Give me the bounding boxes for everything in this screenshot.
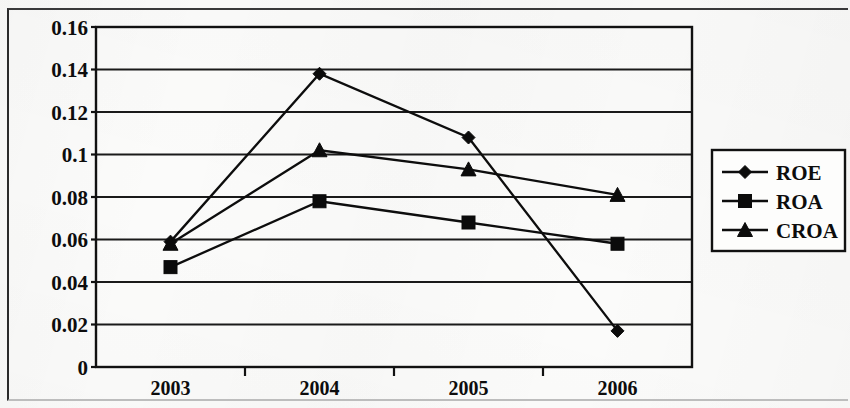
y-axis-tick-labels: 00.020.040.060.080.10.120.140.16 [51,16,96,380]
legend-label: CROA [776,219,839,243]
square-marker [739,195,752,208]
series-roe [164,67,624,337]
y-axis-tick-label: 0.08 [51,186,88,210]
series-roa [164,195,624,274]
y-axis-tick-label: 0.02 [51,313,88,337]
x-axis-tick-labels: 2003200420052006 [151,377,638,399]
y-axis-tick-label: 0.04 [51,271,88,295]
triangle-marker [312,143,327,157]
y-axis-tick-label: 0.06 [51,228,88,252]
y-axis-tick-label: 0.1 [62,143,88,167]
chart-legend: ROEROACROA [712,150,845,251]
legend-label: ROA [776,190,824,214]
legend-label: ROE [776,161,822,185]
x-axis-tick-label: 2003 [151,377,191,399]
x-axis-tick-label: 2004 [300,377,340,399]
square-marker [164,261,177,274]
square-marker [462,216,475,229]
x-axis-tick-label: 2006 [598,377,638,399]
chart-figure: 00.020.040.060.080.10.120.140.16 2003200… [0,0,850,408]
data-series-layer [163,67,625,337]
series-line [171,201,618,267]
y-axis-tick-label: 0.16 [51,16,88,40]
x-axis-tick-label: 2005 [449,377,489,399]
square-marker [313,195,326,208]
y-axis-tick-label: 0 [78,356,89,380]
y-axis-tick-label: 0.12 [51,101,88,125]
x-axis-ticks [245,367,543,376]
square-marker [611,237,624,250]
gridlines [96,27,692,367]
line-chart: 00.020.040.060.080.10.120.140.16 2003200… [0,0,850,408]
y-axis-tick-label: 0.14 [51,58,88,82]
chart-svg: 00.020.040.060.080.10.120.140.16 2003200… [0,0,850,408]
